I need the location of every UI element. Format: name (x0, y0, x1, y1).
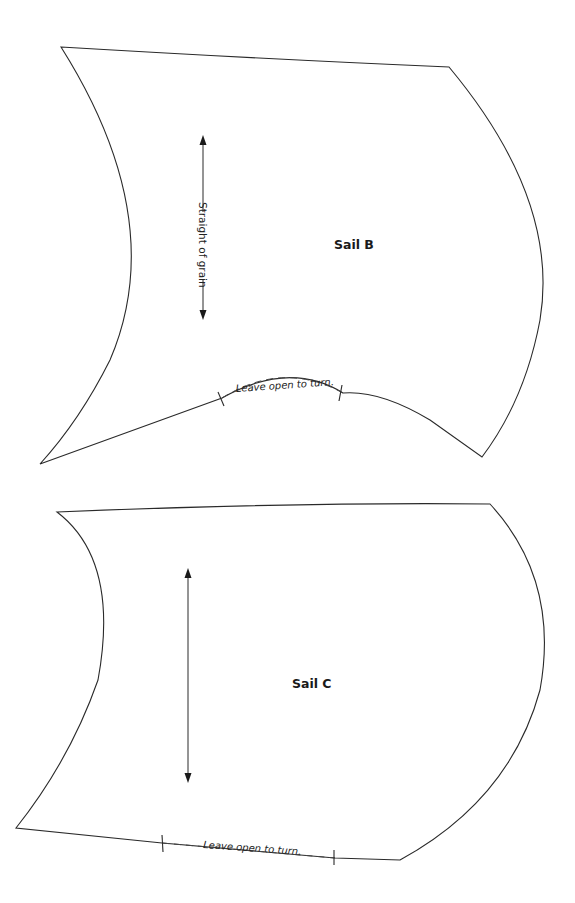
sail-b-opening-tick-right (339, 385, 342, 401)
sail-c-opening-tick-left (162, 835, 163, 852)
sail-c-outline (16, 504, 544, 860)
sail-c-grainline-arrow (185, 568, 192, 783)
arrow-up-icon (200, 135, 207, 145)
sail-c-label: Sail C (292, 676, 332, 691)
sail-b-grainline-label: Straight of grain (197, 202, 209, 288)
arrow-down-icon (200, 310, 207, 320)
arrow-up-icon (185, 568, 192, 578)
sail-b-outline (40, 47, 543, 464)
sail-c-piece: Leave open to turn. Sail C (16, 504, 544, 865)
sail-c-opening-note: Leave open to turn. (203, 839, 302, 857)
sail-b-label: Sail B (334, 237, 374, 252)
sail-b-opening-note: Leave open to turn. (235, 376, 334, 394)
arrow-down-icon (185, 773, 192, 783)
sail-b-piece: Leave open to turn. Straight of grain Sa… (40, 47, 543, 464)
